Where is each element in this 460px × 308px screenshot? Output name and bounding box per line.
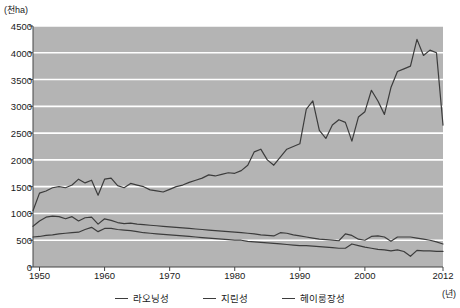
x-tick-label: 1960 [94, 270, 115, 281]
x-tick-label: 2012 [432, 270, 453, 281]
x-tick-label: 1950 [29, 270, 50, 281]
legend-label: 라오닝성 [133, 291, 169, 305]
chart-legend: 라오닝성지린성헤이룽장성 [0, 288, 460, 308]
x-axis-tick-labels: 1950196019701980199020002012 [0, 0, 460, 308]
legend-item[interactable]: 헤이룽장성 [282, 291, 345, 305]
x-tick-label: 1990 [289, 270, 310, 281]
legend-item[interactable]: 라오닝성 [115, 291, 169, 305]
x-tick-label: 2000 [354, 270, 375, 281]
x-tick-label: 1980 [224, 270, 245, 281]
legend-item[interactable]: 지린성 [203, 291, 248, 305]
legend-line-icon [282, 298, 295, 299]
line-chart: (천ha) (년) 050010001500200025003000350040… [0, 0, 460, 308]
legend-line-icon [203, 298, 216, 299]
legend-line-icon [115, 298, 128, 299]
legend-label: 헤이룽장성 [300, 291, 345, 305]
x-tick-label: 1970 [159, 270, 180, 281]
legend-label: 지린성 [221, 291, 248, 305]
